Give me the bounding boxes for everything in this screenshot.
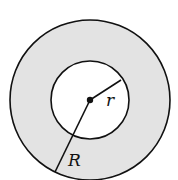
annulus-diagram: r R — [0, 0, 178, 180]
inner-radius-label: r — [106, 90, 115, 110]
center-point — [87, 97, 93, 103]
outer-radius-label: R — [67, 150, 81, 170]
